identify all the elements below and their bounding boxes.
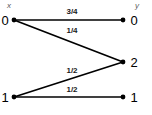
nodes-group: [12, 18, 126, 100]
channel-transition-diagram: 3/41/41/21/201021xy: [0, 0, 152, 115]
node-dot-x0: [12, 18, 17, 23]
node-dot-y2: [121, 60, 126, 65]
edges-group: [14, 20, 123, 97]
edge-x0-y2: [14, 20, 123, 62]
edge-x1-y2: [14, 62, 123, 97]
node-dot-y0: [121, 18, 126, 23]
node-dot-y1: [121, 95, 126, 100]
node-dot-x1: [12, 95, 17, 100]
diagram-canvas: [0, 0, 152, 115]
